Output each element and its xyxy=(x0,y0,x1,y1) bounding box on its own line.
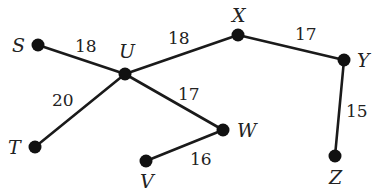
node-t xyxy=(29,141,42,154)
node-label-y: Y xyxy=(357,49,372,71)
edge-u-t xyxy=(35,74,125,147)
edge-u-w xyxy=(125,74,223,130)
edge-x-y xyxy=(238,35,344,60)
node-z xyxy=(329,150,342,163)
edge-weight-x-y: 17 xyxy=(295,24,317,44)
weighted-graph-diagram: 18181715201716SUXYTWVZ xyxy=(0,0,372,191)
labels-layer: 18181715201716SUXYTWVZ xyxy=(8,4,372,191)
node-label-w: W xyxy=(237,119,258,141)
edge-weight-y-z: 15 xyxy=(346,101,368,121)
node-v xyxy=(140,155,153,168)
node-label-v: V xyxy=(140,170,156,191)
node-label-x: X xyxy=(230,4,247,26)
node-y xyxy=(338,54,351,67)
node-label-z: Z xyxy=(328,166,343,188)
edge-weight-s-u: 18 xyxy=(75,36,97,56)
node-label-s: S xyxy=(12,34,25,56)
node-s xyxy=(32,39,45,52)
edge-weight-u-t: 20 xyxy=(52,90,74,110)
edge-weight-u-w: 17 xyxy=(178,84,200,104)
node-label-t: T xyxy=(8,136,22,158)
edge-weight-u-x: 18 xyxy=(168,28,190,48)
edge-y-z xyxy=(335,60,344,156)
node-w xyxy=(217,124,230,137)
node-u xyxy=(119,68,132,81)
node-x xyxy=(232,29,245,42)
node-label-u: U xyxy=(119,40,136,62)
edge-weight-w-v: 16 xyxy=(190,149,212,169)
